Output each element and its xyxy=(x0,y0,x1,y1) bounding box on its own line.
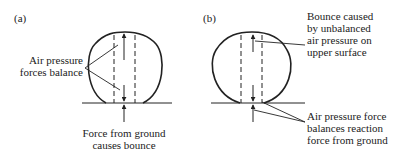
leader-b-lower2 xyxy=(254,110,305,122)
panel-a-tag: (a) xyxy=(14,12,26,24)
panel-b-drawing xyxy=(211,32,305,122)
leader-b-lower1 xyxy=(262,102,305,122)
panel-a-drawing xyxy=(82,32,172,122)
label-air-pressure-balance: Air pressure forces balance xyxy=(17,54,83,78)
label-line: Bounce caused xyxy=(307,10,373,22)
label-ground-force: Force from ground causes bounce xyxy=(74,127,174,151)
label-air-pressure-reaction: Air pressure force balances reaction for… xyxy=(307,110,388,146)
label-line: balances reaction xyxy=(307,122,388,134)
label-line: air pressure on xyxy=(307,34,373,46)
label-line: force from ground xyxy=(307,134,388,146)
label-line: Force from ground xyxy=(74,127,174,139)
label-line: upper surface xyxy=(307,46,373,58)
label-bounce-unbalanced: Bounce caused by unbalanced air pressure… xyxy=(307,10,373,58)
label-line: Air pressure xyxy=(17,54,83,66)
label-line: causes bounce xyxy=(74,139,174,151)
ball-outline-a xyxy=(88,32,162,103)
panel-b-tag: (b) xyxy=(203,12,216,24)
label-line: Air pressure force xyxy=(307,110,388,122)
label-line: forces balance xyxy=(17,66,83,78)
label-line: by unbalanced xyxy=(307,22,373,34)
